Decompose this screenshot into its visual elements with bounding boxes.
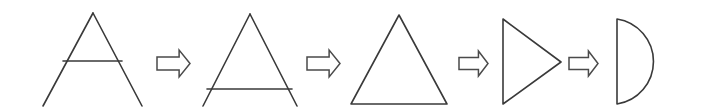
shape-letter-a-low-bar (203, 14, 297, 106)
arrow-right-icon (307, 50, 340, 77)
arrow-3 (459, 51, 488, 76)
arrow-right-icon (569, 51, 598, 76)
letter-a-right-leg (93, 13, 142, 106)
arrow-right-icon (459, 51, 488, 76)
shape-morphing-sequence-figure: Shape morphing sequence A letter-A outli… (0, 0, 702, 110)
half-disc-outline (617, 19, 653, 104)
arrow-2 (307, 50, 340, 77)
arrow-1 (157, 50, 190, 77)
shape-half-disc (617, 19, 653, 104)
arrow-4 (569, 51, 598, 76)
right-pointing-triangle-outline (503, 19, 561, 104)
letter-a-low-right-leg (250, 14, 297, 106)
arrow-right-icon (157, 50, 190, 77)
closed-triangle-outline (351, 15, 447, 104)
shape-letter-a-open (43, 13, 142, 106)
sequence-canvas (0, 0, 702, 110)
letter-a-low-left-leg (203, 14, 250, 106)
shape-right-pointing-triangle (503, 19, 561, 104)
shape-closed-triangle (351, 15, 447, 104)
letter-a-left-leg (43, 13, 93, 106)
